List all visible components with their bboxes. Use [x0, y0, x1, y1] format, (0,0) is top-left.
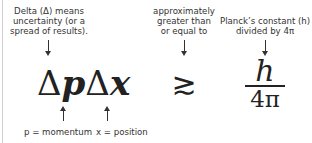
- delta-annotation-line-3: spread of results).: [8, 26, 90, 36]
- delta-arrow-down-icon: [45, 40, 52, 56]
- planck-annotation-line-1: Planck’s constant (h): [220, 16, 310, 26]
- momentum-label: p = momentum: [24, 127, 92, 137]
- position-variable: x: [110, 63, 130, 103]
- approx-greater-equal-symbol: ≳: [164, 69, 204, 99]
- momentum-variable: p: [62, 63, 86, 103]
- approx-annotation-line-1: approximately: [144, 6, 224, 16]
- planck-annotation: Planck’s constant (h) divided by 4π: [220, 16, 310, 36]
- approx-annotation-line-2: greater than: [144, 16, 224, 26]
- momentum-arrow-up-icon: [60, 106, 67, 121]
- planck-annotation-line-2: divided by 4π: [220, 26, 310, 36]
- position-label: x = position: [96, 127, 148, 137]
- approx-arrow-down-icon: [181, 40, 188, 56]
- uncertainty-principle-diagram: Delta (Δ) means uncertainty (or a spread…: [0, 0, 312, 143]
- approx-annotation-line-3: or equal to: [144, 26, 224, 36]
- uncertainty-product: ΔpΔx: [37, 63, 130, 103]
- delta-annotation-line-1: Delta (Δ) means: [8, 6, 90, 16]
- position-arrow-up-icon: [104, 106, 111, 121]
- planck-fraction: h 4π: [245, 58, 285, 109]
- delta-symbol-position: Δ: [85, 63, 110, 103]
- delta-annotation: Delta (Δ) means uncertainty (or a spread…: [8, 6, 90, 36]
- delta-annotation-line-2: uncertainty (or a: [8, 16, 90, 26]
- left-border-divider: [2, 0, 3, 143]
- delta-symbol-momentum: Δ: [37, 63, 62, 103]
- fraction-numerator: h: [245, 58, 285, 84]
- fraction-denominator: 4π: [245, 89, 285, 109]
- approx-annotation: approximately greater than or equal to: [144, 6, 224, 36]
